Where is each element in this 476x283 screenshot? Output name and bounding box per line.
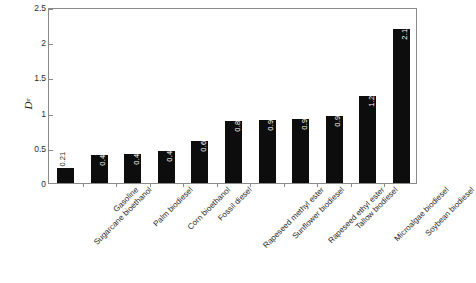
- y-tick-label: 2: [41, 39, 46, 48]
- bar: 0.91: [292, 119, 309, 183]
- y-tick-label: 2.5: [34, 4, 46, 13]
- bar-value-label: 0.21: [58, 152, 66, 167]
- y-tick-label: 0.5: [34, 145, 46, 154]
- plot-area: 0.210.400.410.450.600.880.900.910.951.24…: [48, 8, 417, 184]
- bar: 0.45: [158, 151, 175, 183]
- y-axis-tick-labels: 00.511.522.5: [24, 8, 46, 184]
- y-tick-mark: [49, 115, 53, 116]
- bar-value-label: 1.24: [368, 91, 376, 106]
- bar-value-label: 0.91: [301, 114, 309, 129]
- y-tick-mark: [49, 9, 53, 10]
- y-tick-mark: [49, 150, 53, 151]
- y-tick-label: 1.5: [34, 74, 46, 83]
- y-tick-label: 1: [41, 109, 46, 118]
- bar: 0.90: [259, 120, 276, 183]
- bars-layer: 0.210.400.410.450.600.880.900.910.951.24…: [49, 9, 416, 183]
- bar: 0.21: [57, 168, 74, 183]
- bar-value-label: 0.40: [99, 150, 107, 165]
- bar-value-label: 0.45: [166, 147, 174, 162]
- bar-value-label: 0.95: [334, 111, 342, 126]
- bar: 1.24: [359, 96, 376, 183]
- bar: 0.88: [225, 121, 242, 183]
- bar-value-label: 0.41: [133, 149, 141, 164]
- bar: 2.19: [393, 29, 410, 183]
- bar-value-label: 0.60: [200, 136, 208, 151]
- y-tick-mark: [49, 44, 53, 45]
- bar-value-label: 0.90: [267, 115, 275, 130]
- bar: 0.95: [326, 116, 343, 183]
- bar-value-label: 2.19: [401, 24, 409, 39]
- x-axis-category-labels: Sugarcane bioethanolGasolinePalm biodies…: [0, 186, 429, 283]
- x-category-label: Soybean biodiesel: [424, 186, 476, 238]
- bar: 0.60: [191, 141, 208, 183]
- bar: 0.41: [124, 154, 141, 183]
- bar-value-label: 0.88: [234, 116, 242, 131]
- y-tick-mark: [49, 79, 53, 80]
- bar: 0.40: [91, 155, 108, 183]
